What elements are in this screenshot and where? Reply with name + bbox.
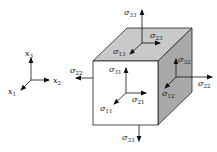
left-face-stress: σ22: [70, 66, 93, 78]
label-sigma33-bottom: σ33: [122, 133, 135, 143]
axis-label-x1: x1: [8, 87, 16, 97]
label-sigma22-right: σ22: [198, 79, 210, 89]
stress-cube-diagram: x3 x2 x1 σ33 σ23 σ13 σ31 σ21 σ11 σ32 σ22…: [0, 0, 217, 152]
label-sigma22-left: σ22: [70, 66, 82, 76]
bottom-face-stress: σ33: [122, 125, 139, 143]
coordinate-axes: x3 x2 x1: [8, 49, 61, 97]
axis-label-x3: x3: [25, 49, 34, 59]
axis-label-x2: x2: [53, 76, 61, 86]
label-sigma33-top: σ33: [124, 8, 137, 18]
